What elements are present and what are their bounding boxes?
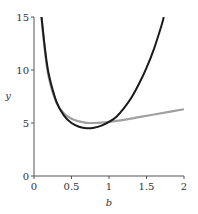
y-axis-label: y: [4, 90, 11, 101]
x-tick-label: 2: [181, 181, 187, 192]
gray-curve: [42, 17, 185, 123]
y-tick-label: 5: [23, 118, 29, 129]
x-tick-label: 1.5: [139, 181, 155, 192]
y-tick-label: 10: [16, 65, 29, 76]
x-tick-label: 0: [31, 181, 37, 192]
x-axis: 00.511.52: [31, 176, 187, 192]
y-tick-label: 0: [23, 171, 29, 182]
x-tick-label: 0.5: [64, 181, 80, 192]
chart: 051015 00.511.52 b y: [0, 0, 198, 214]
y-axis: 051015: [16, 12, 34, 182]
black-curve: [42, 17, 164, 128]
x-axis-label: b: [106, 197, 112, 208]
x-tick-label: 1: [106, 181, 112, 192]
plot-area: [42, 17, 185, 128]
y-tick-label: 15: [16, 12, 29, 23]
